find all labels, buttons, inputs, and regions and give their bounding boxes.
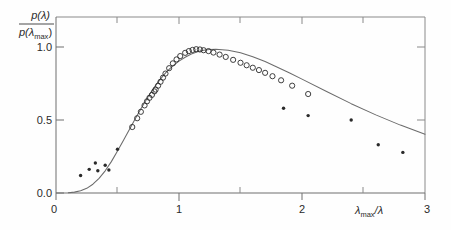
data-point-filled-dot	[377, 143, 380, 146]
data-point-open-circle	[244, 63, 249, 68]
data-point-open-circle	[217, 52, 222, 57]
data-point-filled-dot	[350, 118, 353, 121]
data-point-filled-dot	[88, 168, 91, 171]
x-axis-title: λmax/λ	[354, 204, 383, 219]
x-axis-title-subscript: max	[360, 210, 374, 219]
x-tick-label-2: 2	[299, 203, 305, 215]
spectral-distribution-figure: 1.0 0.5 0.0 0 1 2 3 p(λ) p(λmax) λmax/λ	[0, 0, 451, 230]
data-point-open-circle	[231, 57, 236, 62]
data-point-open-circle	[250, 65, 255, 70]
y-tick-label-1: 1.0	[37, 41, 52, 53]
data-point-open-circle	[256, 67, 261, 72]
data-point-open-circle	[178, 53, 183, 58]
y-axis-title-numerator: p(λ)	[30, 9, 50, 21]
open-circle-data-points	[130, 47, 311, 130]
data-point-filled-dot	[282, 107, 285, 110]
x-axis-title-tail: /λ	[374, 204, 383, 216]
data-point-filled-dot	[306, 114, 309, 117]
data-point-filled-dot	[401, 151, 404, 154]
y-axis-title-denominator-base: p(λ	[18, 26, 34, 38]
y-axis-title-denominator-subscript: max	[34, 32, 48, 41]
y-axis-ticks	[56, 47, 425, 193]
y-axis-title-denominator-tail: )	[48, 26, 52, 38]
data-point-filled-dot	[96, 169, 99, 172]
data-point-open-circle	[223, 54, 228, 59]
y-tick-labels: 1.0 0.5 0.0	[37, 41, 52, 199]
y-tick-label-3: 0.0	[37, 187, 52, 199]
y-axis-title-denominator: p(λmax)	[18, 26, 52, 41]
x-tick-label-0: 0	[51, 203, 57, 215]
x-tick-label-1: 1	[176, 203, 182, 215]
data-point-filled-dot	[94, 161, 97, 164]
data-point-open-circle	[278, 78, 283, 83]
filled-dot-data-points	[79, 107, 405, 178]
data-point-filled-dot	[107, 168, 110, 171]
data-point-open-circle	[270, 74, 275, 79]
data-point-filled-dot	[116, 148, 119, 151]
x-axis-ticks	[56, 17, 425, 201]
plot-frame	[56, 17, 425, 193]
y-axis-title: p(λ) p(λmax)	[18, 9, 54, 41]
theoretical-curve	[68, 49, 425, 193]
data-point-open-circle	[263, 70, 268, 75]
data-point-open-circle	[211, 50, 216, 55]
data-point-open-circle	[238, 60, 243, 65]
data-point-open-circle	[306, 91, 311, 96]
data-point-filled-dot	[79, 174, 82, 177]
data-point-filled-dot	[104, 164, 107, 167]
plot-canvas: 1.0 0.5 0.0 0 1 2 3 p(λ) p(λmax) λmax/λ	[0, 0, 451, 230]
x-tick-label-3: 3	[424, 203, 430, 215]
data-point-open-circle	[290, 83, 295, 88]
y-tick-label-2: 0.5	[37, 114, 52, 126]
